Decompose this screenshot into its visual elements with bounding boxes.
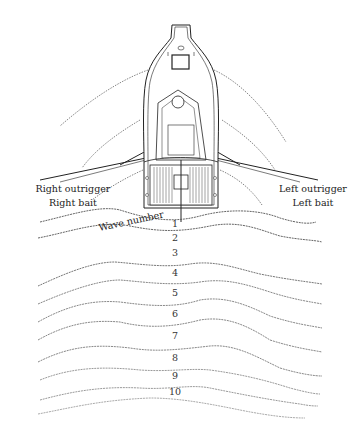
wave-label-5: 5 — [172, 287, 178, 298]
wave-label-7: 7 — [172, 330, 178, 341]
wave-2 — [38, 224, 322, 242]
boat — [144, 25, 219, 222]
right-outrigger-label: Right outrigger Right bait — [18, 182, 128, 210]
left-bait-text: Left bait — [268, 196, 358, 210]
wave-label-6: 6 — [172, 308, 178, 319]
wave-label-8: 8 — [172, 352, 178, 363]
wave-6 — [38, 319, 322, 352]
left-outrigger-label: Left outrigger Left bait — [268, 182, 358, 210]
wave-label-3: 3 — [172, 247, 178, 258]
wave-label-4: 4 — [172, 267, 178, 278]
wave-4 — [38, 280, 322, 304]
boat-wake-diagram — [0, 0, 362, 444]
left-outrigger-text: Left outrigger — [268, 182, 358, 196]
wave-label-9: 9 — [172, 370, 178, 381]
wave-label-10: 10 — [169, 386, 181, 397]
right-outrigger-text: Right outrigger — [18, 182, 128, 196]
wave-label-2: 2 — [172, 232, 178, 243]
wave-3 — [38, 262, 322, 286]
wave-7 — [38, 346, 322, 376]
right-bait-text: Right bait — [18, 196, 128, 210]
wave-10 — [38, 398, 305, 418]
wave-label-1: 1 — [172, 218, 178, 229]
hatch-icon — [172, 55, 189, 69]
